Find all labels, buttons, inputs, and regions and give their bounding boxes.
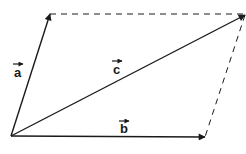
label-b: b bbox=[120, 121, 128, 136]
label-a-group: a bbox=[13, 64, 23, 80]
vector-c bbox=[11, 15, 245, 136]
label-c: c bbox=[113, 62, 120, 77]
label-c-group: c bbox=[112, 61, 122, 77]
vector-diagram: a c b bbox=[0, 0, 246, 154]
vector-b bbox=[11, 136, 205, 137]
label-b-group: b bbox=[119, 121, 129, 136]
label-a: a bbox=[14, 65, 22, 80]
